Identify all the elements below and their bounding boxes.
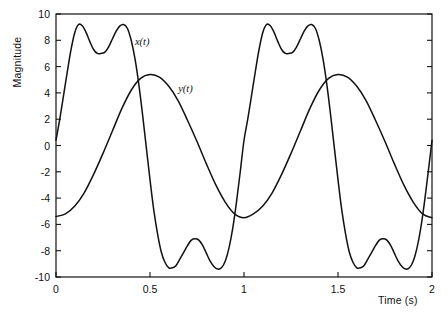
y-tick-label: -6: [8, 218, 50, 230]
y-tick-label: 6: [8, 61, 50, 73]
plot-canvas: [0, 0, 447, 313]
y-tick-label: 8: [8, 34, 50, 46]
x-tick-label: 1: [241, 283, 247, 295]
y-tick-label: -8: [8, 245, 50, 257]
x-tick-label: 0: [53, 283, 59, 295]
y-tick-label: 2: [8, 113, 50, 125]
x-axis-title: Time (s): [378, 294, 418, 306]
curve-xt: [56, 24, 432, 269]
figure-container: Magnitude Time (s) -10-8-6-4-20246810 00…: [0, 0, 447, 313]
y-tick-label: 10: [8, 8, 50, 20]
series-label-yt: y(t): [178, 83, 193, 94]
series-label-xt: x(t): [135, 36, 150, 47]
x-tick-label: 2: [429, 283, 435, 295]
x-tick-label: 0.5: [143, 283, 158, 295]
curve-yt: [56, 74, 432, 217]
data-curves: [56, 24, 432, 269]
y-tick-label: -2: [8, 166, 50, 178]
x-tick-label: 1.5: [331, 283, 346, 295]
y-tick-label: -4: [8, 192, 50, 204]
y-tick-label: 0: [8, 140, 50, 152]
y-tick-label: 4: [8, 87, 50, 99]
y-tick-label: -10: [8, 271, 50, 283]
